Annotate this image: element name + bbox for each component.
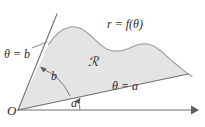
label-polar-curve: r = f(θ) [107, 18, 143, 30]
label-angle-b: b [51, 70, 57, 82]
polar-region-diagram [0, 0, 205, 127]
label-angle-a: a [71, 97, 77, 109]
label-ray-theta-a: θ = a [112, 80, 138, 92]
label-origin: O [7, 104, 16, 117]
figure-canvas: θ = b θ = a r = f(θ) ℛ O b a [0, 0, 205, 127]
label-ray-theta-b: θ = b [4, 48, 30, 60]
label-region-r: ℛ [88, 55, 98, 68]
arrow-right-icon [191, 106, 199, 115]
